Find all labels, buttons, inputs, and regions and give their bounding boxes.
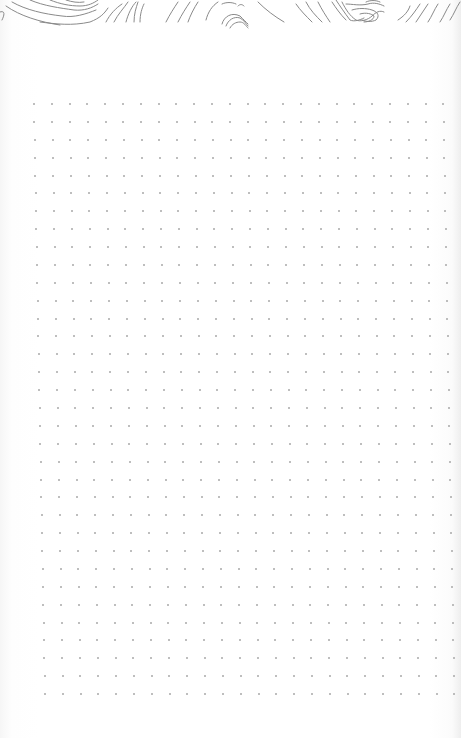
grid-dot [232,264,234,266]
grid-dot [60,604,62,606]
grid-dot [323,389,325,391]
grid-dot [112,496,114,498]
grid-dot [194,139,196,141]
grid-dot [238,568,240,570]
grid-dot [78,604,80,606]
grid-dot [162,353,164,355]
grid-dot [37,318,39,320]
grid-dot [374,228,376,230]
grid-dot [150,622,152,624]
grid-dot [92,407,94,409]
grid-dot [239,657,241,659]
grid-dot [319,157,321,159]
grid-dot [231,228,233,230]
grid-dot [447,335,449,337]
grid-dot [248,192,250,194]
grid-dot [107,246,109,248]
grid-dot [71,210,73,212]
grid-dot [267,264,269,266]
grid-dot [164,443,166,445]
grid-dot [318,121,320,123]
grid-dot [290,496,292,498]
grid-dot [70,192,72,194]
grid-dot [252,407,254,409]
grid-dot [270,425,272,427]
grid-dot [131,568,133,570]
grid-dot [390,157,392,159]
grid-dot [449,461,451,463]
grid-dot [200,479,202,481]
grid-dot [451,550,453,552]
grid-dot [54,264,56,266]
grid-dot [108,282,110,284]
grid-dot [186,657,188,659]
grid-dot [399,622,401,624]
grid-dot [94,532,96,534]
grid-dot [166,532,168,534]
grid-dot [196,264,198,266]
grid-dot [218,479,220,481]
grid-dot [196,246,198,248]
grid-dot [410,282,412,284]
grid-dot [36,264,38,266]
grid-dot [301,157,303,159]
grid-dot [433,532,435,534]
grid-dot [186,675,188,677]
grid-dot [355,175,357,177]
grid-dot [253,443,255,445]
grid-dot [92,425,94,427]
grid-dot [33,121,35,123]
grid-dot [341,371,343,373]
grid-dot [128,425,130,427]
grid-dot [199,425,201,427]
grid-dot [89,246,91,248]
grid-dot [254,496,256,498]
grid-dot [56,371,58,373]
grid-dot [201,532,203,534]
grid-dot [111,461,113,463]
grid-dot [165,496,167,498]
grid-dot [127,353,129,355]
grid-dot [355,210,357,212]
grid-dot [255,568,257,570]
grid-dot [74,389,76,391]
grid-dot [382,693,384,695]
grid-dot [146,425,148,427]
grid-dot [372,121,374,123]
grid-dot [159,192,161,194]
grid-dot [169,693,171,695]
grid-dot [185,622,187,624]
grid-dot [145,389,147,391]
grid-dot [71,246,73,248]
grid-dot [363,639,365,641]
grid-dot [249,228,251,230]
grid-dot [432,479,434,481]
grid-dot [75,425,77,427]
grid-dot [451,568,453,570]
grid-dot [453,675,455,677]
grid-dot [379,496,381,498]
grid-dot [230,157,232,159]
grid-dot [106,192,108,194]
grid-dot [167,586,169,588]
grid-dot [131,604,133,606]
grid-dot [163,389,165,391]
grid-dot [70,175,72,177]
grid-dot [310,639,312,641]
grid-dot [78,622,80,624]
grid-dot [94,514,96,516]
grid-dot [184,586,186,588]
grid-dot [234,389,236,391]
grid-dot [236,479,238,481]
grid-dot [432,514,434,516]
grid-dot [196,228,198,230]
grid-dot [324,443,326,445]
grid-dot [257,675,259,677]
grid-dot [323,353,325,355]
grid-dot [380,550,382,552]
grid-dot [105,139,107,141]
grid-dot [185,639,187,641]
grid-dot [271,461,273,463]
grid-dot [168,657,170,659]
grid-dot [362,586,364,588]
